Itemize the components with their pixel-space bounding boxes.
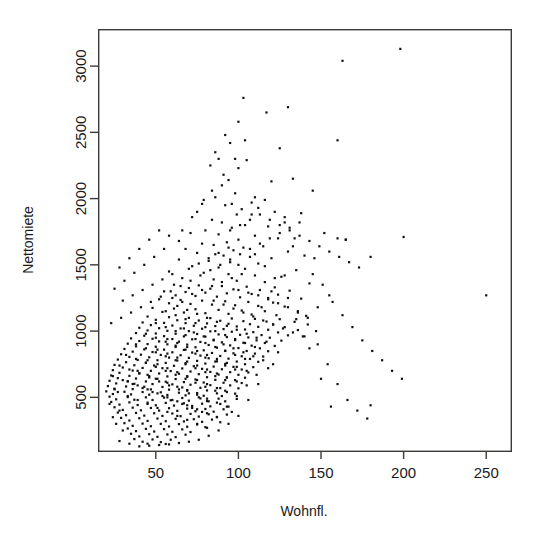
data-point — [193, 365, 195, 367]
data-point — [216, 392, 218, 394]
data-point — [130, 433, 132, 435]
data-point — [130, 337, 132, 339]
data-point — [293, 321, 295, 323]
data-point — [341, 314, 343, 316]
data-point — [148, 356, 150, 358]
data-point — [236, 213, 238, 215]
data-point — [218, 333, 220, 335]
data-point — [241, 208, 243, 210]
data-point — [213, 411, 215, 413]
data-point — [317, 343, 319, 345]
y-tick-label: 3000 — [72, 49, 89, 82]
data-point — [165, 370, 167, 372]
data-point — [229, 261, 231, 263]
data-point — [216, 416, 218, 418]
data-point — [158, 380, 160, 382]
data-point — [188, 330, 190, 332]
data-point — [208, 400, 210, 402]
data-point — [328, 294, 330, 296]
data-point — [118, 372, 120, 374]
data-point — [112, 393, 114, 395]
data-point — [168, 443, 170, 445]
data-point — [186, 404, 188, 406]
data-point — [105, 390, 107, 392]
data-point — [201, 289, 203, 291]
data-point — [229, 258, 231, 260]
data-point — [150, 301, 152, 303]
data-point — [122, 366, 124, 368]
data-point — [232, 307, 234, 309]
data-point — [204, 362, 206, 364]
data-point — [485, 294, 487, 296]
data-point — [171, 351, 173, 353]
data-point — [112, 369, 114, 371]
data-point — [132, 383, 134, 385]
data-point — [222, 382, 224, 384]
data-point — [209, 330, 211, 332]
x-tick-label: 150 — [309, 464, 334, 481]
data-point — [257, 326, 259, 328]
data-point — [219, 264, 221, 266]
data-point — [251, 313, 253, 315]
data-point — [117, 391, 119, 393]
data-point — [274, 286, 276, 288]
data-point — [369, 256, 371, 258]
data-point — [264, 199, 266, 201]
data-point — [125, 385, 127, 387]
data-point — [127, 427, 129, 429]
data-point — [153, 256, 155, 258]
data-point — [155, 404, 157, 406]
data-point — [252, 366, 254, 368]
data-point — [338, 256, 340, 258]
data-point — [237, 387, 239, 389]
data-point — [259, 347, 261, 349]
data-point — [155, 346, 157, 348]
data-point — [127, 380, 129, 382]
data-point — [206, 354, 208, 356]
data-point — [146, 315, 148, 317]
data-point — [113, 364, 115, 366]
data-point — [156, 417, 158, 419]
data-point — [171, 383, 173, 385]
data-point — [257, 361, 259, 363]
data-point — [148, 239, 150, 241]
data-point — [224, 134, 226, 136]
data-point — [146, 443, 148, 445]
data-point — [146, 329, 148, 331]
data-point — [146, 359, 148, 361]
data-point — [160, 296, 162, 298]
data-point — [279, 318, 281, 320]
data-point — [196, 211, 198, 213]
data-point — [209, 371, 211, 373]
data-point — [151, 307, 153, 309]
data-point — [219, 387, 221, 389]
data-point — [209, 384, 211, 386]
data-point — [289, 227, 291, 229]
data-point — [133, 364, 135, 366]
data-point — [175, 333, 177, 335]
data-point — [170, 290, 172, 292]
data-point — [244, 358, 246, 360]
data-point — [216, 387, 218, 389]
data-point — [128, 356, 130, 358]
data-point — [280, 276, 282, 278]
data-point — [247, 292, 249, 294]
data-point — [118, 409, 120, 411]
data-point — [142, 441, 144, 443]
data-point — [265, 111, 267, 113]
data-point — [199, 274, 201, 276]
data-point — [160, 354, 162, 356]
data-point — [231, 227, 233, 229]
data-point — [231, 331, 233, 333]
data-point — [231, 203, 233, 205]
data-point — [163, 428, 165, 430]
data-point — [297, 311, 299, 313]
data-point — [201, 403, 203, 405]
data-point — [110, 401, 112, 403]
data-point — [209, 317, 211, 319]
data-point — [166, 396, 168, 398]
data-point — [284, 221, 286, 223]
data-point — [234, 158, 236, 160]
data-point — [188, 400, 190, 402]
data-point — [216, 321, 218, 323]
